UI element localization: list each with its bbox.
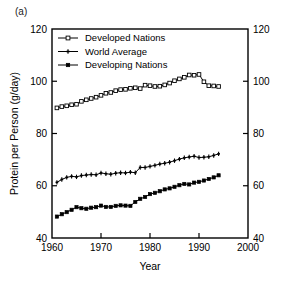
datapoint-2-1967 <box>85 207 88 210</box>
datapoint-2-1980 <box>148 193 151 196</box>
datapoint-1-1986 <box>178 157 181 161</box>
datapoint-1-1970 <box>100 171 103 175</box>
datapoint-2-1963 <box>65 211 68 214</box>
datapoint-0-1975 <box>124 88 128 92</box>
datapoint-1-1964 <box>70 174 73 178</box>
datapoint-0-1978 <box>138 87 142 91</box>
y-ticklabel-left-80: 80 <box>36 128 48 139</box>
datapoint-1-1981 <box>154 163 157 167</box>
datapoint-0-1982 <box>158 84 162 88</box>
datapoint-2-1989 <box>193 181 196 184</box>
legend-label-1: World Average <box>85 46 147 57</box>
datapoint-2-1983 <box>163 188 166 191</box>
legend-item-world-average[interactable]: World Average <box>58 46 147 57</box>
datapoint-1-1961 <box>56 180 59 184</box>
datapoint-2-1994 <box>217 174 220 177</box>
datapoint-0-1977 <box>134 86 138 90</box>
datapoint-1-1987 <box>183 156 186 160</box>
datapoint-0-1961 <box>55 106 59 110</box>
datapoint-0-1962 <box>60 105 64 109</box>
datapoint-0-1963 <box>65 104 69 108</box>
datapoint-1-1976 <box>129 170 132 174</box>
datapoint-2-1986 <box>178 184 181 187</box>
datapoint-0-1968 <box>89 97 93 101</box>
datapoint-2-1975 <box>124 204 127 207</box>
datapoint-2-1979 <box>144 195 147 198</box>
datapoint-0-1987 <box>183 76 187 80</box>
datapoint-2-1964 <box>70 208 73 211</box>
datapoint-0-1965 <box>75 102 79 106</box>
series-developed-nations <box>55 73 220 110</box>
legend-label-2: Developing Nations <box>85 59 168 70</box>
axis-tick-labels: 4040606080801001001201201960197019801990… <box>30 24 270 253</box>
datapoint-0-1971 <box>104 91 108 95</box>
datapoint-1-1993 <box>212 153 215 157</box>
datapoint-0-1967 <box>85 98 89 102</box>
datapoint-0-1989 <box>192 73 196 77</box>
legend-marker-filled-square <box>66 63 69 66</box>
x-ticklabel-1980: 1980 <box>139 242 162 253</box>
datapoint-0-1970 <box>99 94 103 98</box>
datapoint-0-1985 <box>173 79 177 83</box>
datapoint-2-1961 <box>55 215 58 218</box>
x-ticklabel-1970: 1970 <box>90 242 113 253</box>
datapoint-2-1993 <box>212 176 215 179</box>
datapoint-1-1973 <box>114 171 117 175</box>
datapoint-1-1974 <box>119 170 122 174</box>
datapoint-2-1972 <box>109 205 112 208</box>
datapoint-0-1988 <box>187 73 191 77</box>
datapoint-0-1976 <box>129 87 133 91</box>
datapoint-1-1985 <box>173 158 176 162</box>
series-developing-nations <box>55 174 220 218</box>
x-ticklabel-1960: 1960 <box>41 242 64 253</box>
datapoint-2-1966 <box>80 207 83 210</box>
datapoint-2-1984 <box>168 187 171 190</box>
datapoint-1-1968 <box>90 172 93 176</box>
y-ticklabel-left-60: 60 <box>36 180 48 191</box>
datapoint-2-1992 <box>207 177 210 180</box>
datapoint-2-1985 <box>173 185 176 188</box>
y-axis-title: Protein per Person (g/day) <box>8 72 20 195</box>
datapoint-1-1980 <box>149 164 152 168</box>
datapoint-2-1977 <box>134 200 137 203</box>
y-ticklabel-left-120: 120 <box>30 24 47 35</box>
datapoint-0-1974 <box>119 88 123 92</box>
datapoint-1-1989 <box>193 154 196 158</box>
datapoint-0-1994 <box>217 85 221 89</box>
datapoint-1-1992 <box>207 155 210 159</box>
datapoint-2-1988 <box>188 183 191 186</box>
datapoint-0-1983 <box>163 83 167 87</box>
legend-item-developing-nations[interactable]: Developing Nations <box>58 59 168 70</box>
datapoint-0-1993 <box>212 84 216 88</box>
datapoint-1-1971 <box>105 172 108 176</box>
datapoint-2-1976 <box>129 204 132 207</box>
x-ticklabel-1990: 1990 <box>188 242 211 253</box>
datapoint-0-1990 <box>197 73 201 77</box>
datapoint-1-1975 <box>124 171 127 175</box>
datapoint-2-1981 <box>153 191 156 194</box>
datapoint-0-1966 <box>80 100 84 104</box>
datapoint-0-1964 <box>70 103 74 107</box>
y-ticklabel-right-120: 120 <box>253 24 270 35</box>
y-ticklabel-left-100: 100 <box>30 76 47 87</box>
y-ticklabel-right-100: 100 <box>253 76 270 87</box>
datapoint-2-1982 <box>158 190 161 193</box>
datapoint-0-1986 <box>178 77 182 81</box>
legend-label-0: Developed Nations <box>85 32 166 43</box>
datapoint-1-1962 <box>60 177 63 181</box>
datapoint-2-1962 <box>60 213 63 216</box>
datapoint-2-1974 <box>119 204 122 207</box>
legend-marker-cross <box>67 49 70 54</box>
datapoint-1-1963 <box>65 175 68 179</box>
datapoint-2-1987 <box>183 182 186 185</box>
y-ticklabel-right-80: 80 <box>253 128 265 139</box>
legend-item-developed-nations[interactable]: Developed Nations <box>58 32 166 43</box>
datapoint-2-1971 <box>104 205 107 208</box>
datapoint-1-1972 <box>109 172 112 176</box>
datapoint-0-1980 <box>148 84 152 88</box>
datapoint-1-1966 <box>80 173 83 177</box>
datapoint-2-1965 <box>75 206 78 209</box>
datapoint-1-1988 <box>188 155 191 159</box>
datapoint-1-1994 <box>217 152 220 156</box>
datapoint-0-1972 <box>109 91 113 95</box>
